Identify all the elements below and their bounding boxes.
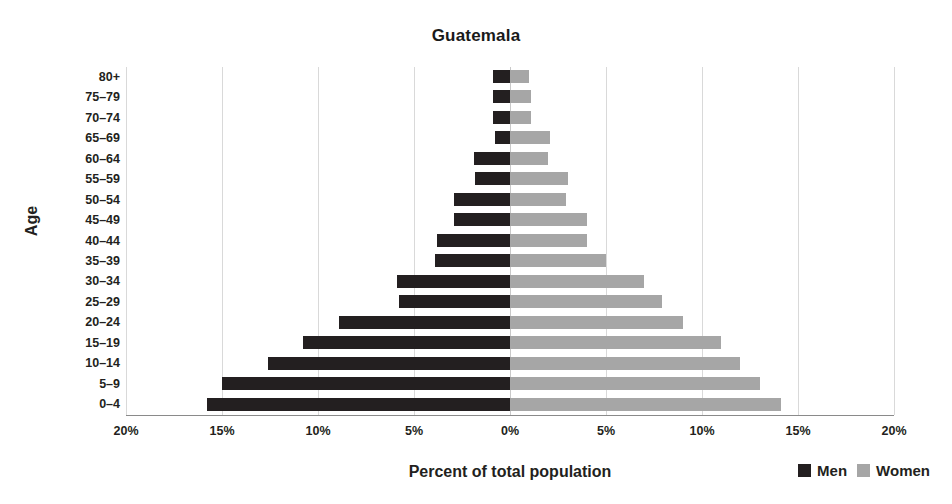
- bar-row: [126, 272, 894, 292]
- y-tick-65–69: 65–69: [0, 132, 120, 145]
- bar-women-30–34[interactable]: [510, 275, 644, 288]
- bar-row: [126, 231, 894, 251]
- y-tick-55–59: 55–59: [0, 173, 120, 186]
- bar-row: [126, 354, 894, 374]
- bar-women-35–39[interactable]: [510, 254, 606, 267]
- y-tick-0–4: 0–4: [0, 398, 120, 411]
- x-tick-6: 10%: [667, 424, 737, 438]
- bar-women-40–44[interactable]: [510, 234, 587, 247]
- bar-women-5–9[interactable]: [510, 377, 760, 390]
- y-tick-15–19: 15–19: [0, 337, 120, 350]
- bar-men-25–29[interactable]: [399, 295, 510, 308]
- bar-men-70–74[interactable]: [493, 111, 510, 124]
- bar-row: [126, 251, 894, 271]
- bar-row: [126, 169, 894, 189]
- x-tick-0: 20%: [91, 424, 161, 438]
- bar-row: [126, 128, 894, 148]
- legend-item-men: Men: [798, 462, 847, 479]
- legend-item-women: Women: [857, 462, 930, 479]
- bar-men-15–19[interactable]: [303, 336, 510, 349]
- bar-row: [126, 395, 894, 415]
- bar-women-70–74[interactable]: [510, 111, 531, 124]
- y-tick-10–14: 10–14: [0, 357, 120, 370]
- bar-women-0–4[interactable]: [510, 398, 781, 411]
- y-tick-30–34: 30–34: [0, 275, 120, 288]
- y-tick-25–29: 25–29: [0, 296, 120, 309]
- y-axis-tick-labels: 0–45–910–1415–1920–2425–2930–3435–3940–4…: [0, 67, 120, 415]
- x-tick-3: 5%: [379, 424, 449, 438]
- bar-row: [126, 333, 894, 353]
- bar-row: [126, 108, 894, 128]
- bar-row: [126, 87, 894, 107]
- gridline-20%-right: [894, 67, 895, 415]
- legend-swatch-women-icon: [857, 464, 870, 477]
- y-tick-40–44: 40–44: [0, 235, 120, 248]
- chart-legend: Men Women: [798, 462, 930, 479]
- y-tick-50–54: 50–54: [0, 194, 120, 207]
- bar-men-10–14[interactable]: [268, 357, 510, 370]
- bar-men-0–4[interactable]: [207, 398, 510, 411]
- legend-label-men: Men: [817, 462, 847, 479]
- y-tick-35–39: 35–39: [0, 255, 120, 268]
- bar-men-20–24[interactable]: [339, 316, 510, 329]
- bar-row: [126, 149, 894, 169]
- bar-row: [126, 374, 894, 394]
- y-tick-75–79: 75–79: [0, 91, 120, 104]
- bar-row: [126, 67, 894, 87]
- x-tick-8: 20%: [859, 424, 929, 438]
- x-tick-1: 15%: [187, 424, 257, 438]
- x-tick-7: 15%: [763, 424, 833, 438]
- bar-men-30–34[interactable]: [397, 275, 510, 288]
- bar-women-50–54[interactable]: [510, 193, 566, 206]
- y-tick-45–49: 45–49: [0, 214, 120, 227]
- bar-women-65–69[interactable]: [510, 131, 550, 144]
- x-tick-5: 5%: [571, 424, 641, 438]
- legend-swatch-men-icon: [798, 464, 811, 477]
- bar-women-25–29[interactable]: [510, 295, 662, 308]
- legend-label-women: Women: [876, 462, 930, 479]
- bar-row: [126, 190, 894, 210]
- x-tick-2: 10%: [283, 424, 353, 438]
- bar-women-15–19[interactable]: [510, 336, 721, 349]
- bar-men-45–49[interactable]: [454, 213, 510, 226]
- bar-men-55–59[interactable]: [475, 172, 510, 185]
- bar-men-50–54[interactable]: [454, 193, 510, 206]
- bar-women-80+[interactable]: [510, 70, 529, 83]
- bar-men-60–64[interactable]: [474, 152, 510, 165]
- bar-women-55–59[interactable]: [510, 172, 568, 185]
- bar-men-65–69[interactable]: [495, 131, 510, 144]
- bar-women-45–49[interactable]: [510, 213, 587, 226]
- bar-women-10–14[interactable]: [510, 357, 740, 370]
- y-tick-5–9: 5–9: [0, 378, 120, 391]
- x-axis-line: [126, 415, 894, 416]
- bar-row: [126, 292, 894, 312]
- population-pyramid-chart: Guatemala Age 0–45–910–1415–1920–2425–29…: [0, 0, 952, 504]
- y-tick-60–64: 60–64: [0, 153, 120, 166]
- bar-women-20–24[interactable]: [510, 316, 683, 329]
- x-axis-title: Percent of total population: [126, 463, 894, 481]
- x-tick-4: 0%: [475, 424, 545, 438]
- plot-area: [126, 67, 894, 415]
- bar-women-60–64[interactable]: [510, 152, 548, 165]
- bar-women-75–79[interactable]: [510, 90, 531, 103]
- y-tick-70–74: 70–74: [0, 112, 120, 125]
- bar-men-80+[interactable]: [493, 70, 510, 83]
- bar-men-5–9[interactable]: [222, 377, 510, 390]
- bar-row: [126, 313, 894, 333]
- y-tick-80+: 80+: [0, 71, 120, 84]
- bar-men-75–79[interactable]: [493, 90, 510, 103]
- bar-men-35–39[interactable]: [435, 254, 510, 267]
- y-tick-20–24: 20–24: [0, 316, 120, 329]
- bar-row: [126, 210, 894, 230]
- bar-men-40–44[interactable]: [437, 234, 510, 247]
- chart-title: Guatemala: [0, 26, 952, 46]
